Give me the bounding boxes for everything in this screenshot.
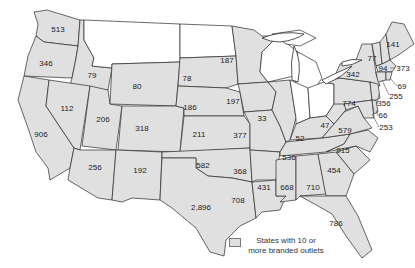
label-nm: 192 bbox=[133, 166, 147, 175]
label-de: 66 bbox=[379, 111, 388, 120]
label-va: 579 bbox=[338, 126, 352, 135]
label-nh: 94 bbox=[379, 64, 388, 73]
label-me: 141 bbox=[386, 40, 400, 49]
label-mn: 187 bbox=[220, 56, 234, 65]
label-al: 668 bbox=[280, 183, 294, 192]
leader-ct bbox=[382, 80, 389, 95]
state-ia bbox=[238, 82, 276, 112]
label-vt: 77 bbox=[368, 54, 377, 63]
label-ok: 582 bbox=[196, 161, 210, 170]
us-map: 513 346 906 79 112 206 256 80 318 192 78… bbox=[0, 0, 415, 268]
label-or: 346 bbox=[39, 59, 53, 68]
label-la: 708 bbox=[231, 196, 245, 205]
state-ar bbox=[250, 150, 280, 182]
lake-michigan bbox=[291, 46, 299, 82]
label-co: 318 bbox=[135, 124, 149, 133]
state-az bbox=[68, 148, 116, 200]
label-ms: 431 bbox=[257, 183, 271, 192]
state-ct bbox=[376, 72, 386, 82]
label-ut: 206 bbox=[96, 115, 110, 124]
label-fl: 786 bbox=[329, 219, 343, 228]
label-az: 256 bbox=[88, 163, 102, 172]
state-nm bbox=[112, 150, 162, 202]
label-ia: 197 bbox=[226, 97, 240, 106]
label-ri: 69 bbox=[398, 82, 407, 91]
label-wy: 80 bbox=[133, 82, 142, 91]
label-ca: 906 bbox=[34, 130, 48, 139]
label-ny: 342 bbox=[346, 70, 360, 79]
state-ri bbox=[386, 72, 392, 80]
label-pa: 774 bbox=[342, 99, 356, 108]
label-md: 253 bbox=[379, 123, 393, 132]
label-ks: 211 bbox=[193, 130, 206, 139]
label-ar: 368 bbox=[233, 167, 247, 176]
label-sd: 78 bbox=[183, 74, 192, 83]
leader-ri bbox=[390, 78, 397, 86]
label-ct: 255 bbox=[389, 92, 403, 101]
label-ky: 52 bbox=[296, 134, 305, 143]
label-id: 79 bbox=[88, 71, 97, 80]
state-ms bbox=[276, 156, 296, 202]
state-nd bbox=[180, 24, 236, 58]
label-nv: 112 bbox=[61, 104, 74, 113]
state-co bbox=[118, 106, 184, 152]
label-ga: 710 bbox=[306, 183, 320, 192]
legend-swatch-shaded bbox=[229, 238, 241, 247]
label-sc: 454 bbox=[327, 166, 341, 175]
label-wv: 47 bbox=[321, 121, 330, 130]
label-tx: 2,896 bbox=[191, 203, 212, 212]
state-mt bbox=[84, 20, 180, 68]
label-tn: 536 bbox=[282, 153, 296, 162]
state-wy bbox=[110, 62, 180, 106]
label-ma: 373 bbox=[396, 64, 410, 73]
legend: States with 10 or more branded outlets bbox=[229, 236, 326, 256]
label-mo: 377 bbox=[233, 131, 247, 140]
label-wa: 513 bbox=[51, 25, 65, 34]
label-ne: 186 bbox=[183, 103, 197, 112]
legend-label: States with 10 or more branded outlets bbox=[246, 236, 326, 256]
label-il: 33 bbox=[258, 114, 267, 123]
label-nc: 915 bbox=[336, 146, 350, 155]
label-nj: 356 bbox=[377, 99, 391, 108]
